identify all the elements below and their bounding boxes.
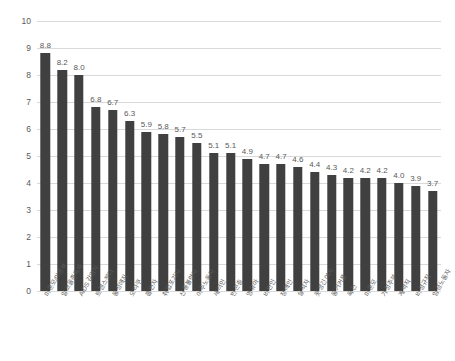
bar-value-label: 8.2 [57, 59, 68, 67]
bar-slot: 4.7 [273, 21, 290, 291]
bar-series: 8.88.28.06.86.76.35.95.85.75.55.15.14.94… [37, 21, 441, 291]
bar-value-label: 6.8 [90, 96, 101, 104]
y-tick-label: 4 [0, 179, 31, 188]
bar [159, 134, 168, 291]
bar [108, 110, 117, 291]
bar-value-label: 4.7 [276, 153, 287, 161]
x-label-slot: 실직자 [290, 293, 307, 361]
bar [377, 178, 386, 291]
x-label-slot: 독신 [340, 293, 357, 361]
bar-slot: 4.3 [323, 21, 340, 291]
x-label-slot: 취업포기자 [155, 293, 172, 361]
bar [361, 178, 370, 291]
bar-slot: 3.7 [424, 21, 441, 291]
bar-value-label: 4.2 [360, 167, 371, 175]
x-label-slot: 영유아 [239, 293, 256, 361]
bar-value-label: 5.7 [175, 126, 186, 134]
x-label-slot: 장애인 [273, 293, 290, 361]
bar-value-label: 5.8 [158, 123, 169, 131]
bar-slot: 4.7 [256, 21, 273, 291]
bar [125, 121, 134, 291]
y-tick-label: 7 [0, 98, 31, 107]
x-label-slot: 알코올중독자 [54, 293, 71, 361]
bar-slot: 5.1 [222, 21, 239, 291]
x-label-slot: 임금노동자 [424, 293, 441, 361]
bar-slot: 6.3 [121, 21, 138, 291]
bar-slot: 4.2 [340, 21, 357, 291]
bar-slot: 5.9 [138, 21, 155, 291]
bar-slot: 4.6 [290, 21, 307, 291]
bar-value-label: 4.4 [309, 161, 320, 169]
bar-slot: 4.9 [239, 21, 256, 291]
bar [243, 159, 252, 291]
bar [260, 164, 269, 291]
bar [142, 132, 151, 291]
plot-area: 8.88.28.06.86.76.35.95.85.75.55.15.14.94… [37, 21, 441, 291]
bar-value-label: 4.2 [343, 167, 354, 175]
bar-slot: 6.7 [104, 21, 121, 291]
bar-value-label: 5.1 [208, 142, 219, 150]
y-tick-label: 9 [0, 44, 31, 53]
bar [74, 75, 83, 291]
bar-slot: 5.8 [155, 21, 172, 291]
bar-slot: 8.2 [54, 21, 71, 291]
x-label-slot: 새터민 [205, 293, 222, 361]
bar [310, 172, 319, 291]
bar-value-label: 5.9 [141, 121, 152, 129]
bar-slot: 5.1 [205, 21, 222, 291]
bar-slot: 8.0 [71, 21, 88, 291]
bar-value-label: 4.9 [242, 148, 253, 156]
bar-slot: 8.8 [37, 21, 54, 291]
x-label-slot: 가정주부 [374, 293, 391, 361]
bar-value-label: 8.8 [40, 42, 51, 50]
y-tick-label: 2 [0, 233, 31, 242]
x-label-slot: 미혼모/미혼부 [37, 293, 54, 361]
bar-value-label: 3.7 [427, 180, 438, 188]
bar-slot: 5.5 [189, 21, 206, 291]
bar-slot: 3.9 [407, 21, 424, 291]
bar-value-label: 4.2 [377, 167, 388, 175]
bar-slot: 6.8 [88, 21, 105, 291]
bar-value-label: 4.0 [393, 172, 404, 180]
y-tick-label: 5 [0, 152, 31, 161]
x-axis-labels: 미혼모/미혼부알코올중독자AIDS 감염자트렌스젠더동성애자오타쿠흡연자취업포기… [37, 293, 441, 361]
bar [58, 70, 67, 291]
x-label-slot: 흡연자 [138, 293, 155, 361]
bar-value-label: 5.1 [225, 142, 236, 150]
bar-slot: 5.7 [172, 21, 189, 291]
bar-slot: 4.0 [391, 21, 408, 291]
y-tick-label: 0 [0, 287, 31, 296]
y-tick-label: 6 [0, 125, 31, 134]
x-label-slot: 동성애자 [104, 293, 121, 361]
bar-value-label: 8.0 [74, 64, 85, 72]
y-tick-label: 1 [0, 260, 31, 269]
bar-value-label: 3.9 [410, 175, 421, 183]
x-label-slot: 이주노동자 [189, 293, 206, 361]
bar [41, 53, 50, 291]
x-label-slot: 계약직 [391, 293, 408, 361]
x-label-slot: 비만인 [256, 293, 273, 361]
bar-slot: 4.2 [374, 21, 391, 291]
bar [411, 186, 420, 291]
bar [226, 153, 235, 291]
bar-value-label: 5.5 [191, 132, 202, 140]
x-label-slot: 빈곤층 [222, 293, 239, 361]
x-label-slot: 못생긴 여자 [306, 293, 323, 361]
x-label-slot: AIDS 감염자 [71, 293, 88, 361]
bar-value-label: 4.7 [259, 153, 270, 161]
x-label-slot: 트렌스젠더 [88, 293, 105, 361]
bar-value-label: 4.6 [292, 156, 303, 164]
bar [91, 107, 100, 291]
y-tick-label: 3 [0, 206, 31, 215]
x-label-slot: 오타쿠 [121, 293, 138, 361]
x-label-slot: 신용불량자 [172, 293, 189, 361]
bar [276, 164, 285, 291]
bar-chart: 109876543210 8.88.28.06.86.76.35.95.85.7… [0, 0, 455, 361]
x-label-slot: 미혼모 [357, 293, 374, 361]
x-label-slot: 동거커플 [323, 293, 340, 361]
bar-slot: 4.4 [306, 21, 323, 291]
y-tick-label: 10 [0, 17, 31, 26]
bar-value-label: 6.7 [107, 99, 118, 107]
x-label-slot: 비정규직 [407, 293, 424, 361]
bar-slot: 4.2 [357, 21, 374, 291]
